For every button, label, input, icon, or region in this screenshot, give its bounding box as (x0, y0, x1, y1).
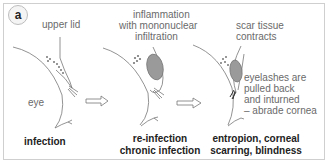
stage2-eyelid-drawing (103, 47, 166, 126)
stage1-eyelid-drawing (13, 37, 78, 128)
label-eyelashes-line4: – abrade cornea (244, 105, 317, 116)
label-scar-tissue-line1: scar tissue (236, 20, 284, 31)
arrow-right-icon (177, 98, 201, 108)
caption-entropion: entropion, corneal scarring, blindness (196, 133, 316, 157)
arrow-right-icon (86, 96, 108, 106)
label-eye: eye (28, 97, 44, 108)
label-inflammation-line3: infiltration (135, 31, 178, 42)
label-inflammation-line1: inflammation (133, 9, 190, 20)
caption-line-2: scarring, blindness (196, 145, 316, 157)
label-eyelashes-line1: eyelashes are (244, 72, 306, 83)
stage3-eyelid-drawing (193, 45, 244, 126)
label-eyelashes-line2: pulled back (244, 83, 295, 94)
label-eyelashes-line3: and inturned (244, 94, 300, 105)
label-inflammation-line2: with mononuclear (119, 20, 197, 31)
label-upper-lid: upper lid (42, 19, 80, 30)
caption-line-1: entropion, corneal (196, 133, 316, 145)
caption-infection: infection (24, 136, 66, 148)
label-scar-tissue-line2: contracts (236, 31, 277, 42)
